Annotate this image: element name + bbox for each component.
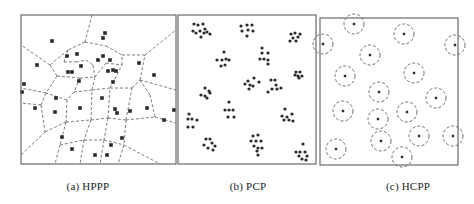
cluster-point (251, 29, 254, 32)
voronoi-edge (106, 63, 122, 65)
cluster-point (195, 118, 198, 121)
cluster-point (208, 137, 211, 140)
cluster-point (224, 57, 227, 60)
cluster-point (202, 31, 205, 34)
point-marker (54, 96, 58, 100)
panel-c-hcpp (313, 14, 465, 167)
cluster-point (270, 87, 273, 90)
point-marker (369, 54, 371, 56)
voronoi-edge (140, 55, 145, 80)
cluster-point (251, 84, 254, 87)
point-marker (162, 118, 166, 122)
cluster-point (196, 23, 199, 26)
cluster-point (266, 58, 269, 61)
cluster-point (300, 74, 303, 77)
voronoi-edge (140, 80, 150, 95)
cluster-point (191, 125, 194, 128)
cluster-point (293, 73, 296, 76)
cluster-point (215, 58, 218, 61)
cluster-point (298, 32, 301, 35)
cluster-point (255, 149, 258, 152)
voronoi-edge (76, 60, 86, 62)
cluster-point (194, 31, 197, 34)
cluster-point (254, 139, 257, 142)
cluster-point (206, 146, 209, 149)
voronoi-edge (124, 120, 126, 145)
voronoi-edge (66, 100, 67, 122)
voronoi-edge (21, 132, 45, 155)
point-marker (452, 135, 454, 137)
cluster-point (280, 114, 283, 117)
point-marker (128, 109, 132, 113)
point-marker (33, 106, 37, 110)
point-marker (413, 72, 415, 74)
voronoi-edge (74, 90, 92, 92)
point-marker (353, 23, 355, 25)
cluster-point (227, 108, 230, 111)
cluster-point (208, 91, 211, 94)
cluster-point (247, 87, 250, 90)
voronoi-edge (57, 76, 80, 78)
cluster-point (190, 117, 193, 120)
cluster-point (274, 83, 277, 86)
point-marker (101, 54, 105, 58)
point-marker (380, 140, 382, 142)
point-marker (378, 91, 380, 93)
voronoi-edge (104, 118, 108, 140)
point-marker (65, 54, 69, 58)
cluster-point (257, 80, 260, 83)
cluster-point (258, 57, 261, 60)
point-marker (79, 64, 83, 68)
voronoi-edge (126, 117, 155, 120)
cluster-point (245, 23, 248, 26)
point-marker (454, 44, 456, 46)
cluster-point (199, 35, 202, 38)
voronoi-edge (145, 30, 176, 55)
cluster-point (289, 32, 292, 35)
voronoi-edge (104, 140, 124, 145)
voronoi-edge (126, 88, 132, 120)
cluster-point (211, 148, 214, 151)
cluster-point (305, 154, 308, 157)
cluster-point (191, 29, 194, 32)
point-marker (335, 148, 337, 150)
cluster-point (246, 28, 249, 31)
cluster-point (231, 108, 234, 111)
cluster-point (243, 82, 246, 85)
point-marker (93, 153, 97, 157)
cluster-point (205, 96, 208, 99)
cluster-point (252, 76, 255, 79)
cluster-point (296, 35, 299, 38)
voronoi-edge (85, 15, 92, 42)
cluster-point (192, 22, 195, 25)
voronoi-edge (118, 145, 124, 164)
cluster-point (249, 139, 252, 142)
cluster-point (291, 36, 294, 39)
cluster-point (291, 119, 294, 122)
point-marker (111, 80, 115, 84)
caption-a: (a) HPPP (67, 180, 110, 192)
point-marker (77, 79, 81, 83)
point-marker (418, 135, 420, 137)
voronoi-edge (91, 90, 92, 120)
voronoi-edge (92, 77, 95, 90)
voronoi-edge (100, 140, 104, 164)
cluster-point (297, 154, 300, 157)
point-marker (22, 82, 26, 86)
cluster-point (266, 90, 269, 93)
point-marker (108, 58, 112, 62)
voronoi-edge (21, 88, 46, 93)
cluster-point (279, 86, 282, 89)
voronoi-edge (91, 118, 108, 120)
voronoi-edge (80, 77, 95, 78)
cluster-point (266, 62, 269, 65)
cluster-point (300, 157, 303, 160)
voronoi-edge (106, 46, 122, 55)
voronoi-edge (85, 42, 106, 46)
point-marker (100, 96, 104, 100)
cluster-point (303, 150, 306, 153)
cluster-point (275, 87, 278, 90)
voronoi-edge (93, 65, 95, 77)
voronoi-edge (50, 65, 57, 76)
voronoi-edge (68, 42, 85, 50)
